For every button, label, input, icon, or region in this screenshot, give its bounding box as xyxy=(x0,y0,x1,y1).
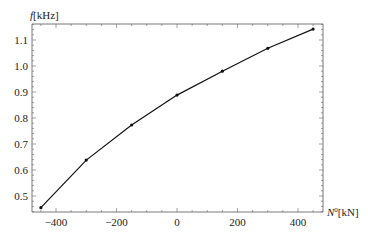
data-point-marker xyxy=(221,70,224,73)
y-tick-label: 0.7 xyxy=(14,138,28,150)
y-tick-label: 0.6 xyxy=(14,164,28,176)
data-point-marker xyxy=(130,123,133,126)
data-series xyxy=(39,27,314,209)
y-tick-label: 1.1 xyxy=(14,34,28,46)
data-point-marker xyxy=(175,94,178,97)
data-point-marker xyxy=(85,159,88,162)
y-tick-label: 0.9 xyxy=(14,86,28,98)
series-line xyxy=(41,29,313,208)
x-tick-label: −200 xyxy=(105,216,128,228)
x-tick-label: −400 xyxy=(45,216,68,228)
x-tick-label: 400 xyxy=(290,216,307,228)
data-point-marker xyxy=(39,206,42,209)
x-axis-ticks: −400−2000200400 xyxy=(41,24,313,228)
y-tick-label: 0.5 xyxy=(14,190,28,202)
data-point-marker xyxy=(266,47,269,50)
y-axis-ticks: 0.50.60.70.80.91.01.1 xyxy=(14,24,323,211)
x-axis-label: N0[kN] xyxy=(326,206,359,218)
line-chart: −400−2000200400 0.50.60.70.80.91.01.1 f[… xyxy=(0,0,368,235)
y-axis-label: f[kHz] xyxy=(30,9,59,21)
data-point-marker xyxy=(312,27,315,30)
y-tick-label: 1.0 xyxy=(14,60,28,72)
plot-frame xyxy=(32,24,323,212)
x-tick-label: 0 xyxy=(174,216,180,228)
y-tick-label: 0.8 xyxy=(14,112,28,124)
x-tick-label: 200 xyxy=(229,216,246,228)
